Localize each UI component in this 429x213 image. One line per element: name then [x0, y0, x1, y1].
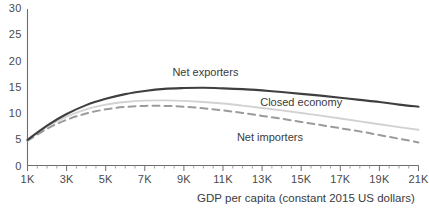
- x-axis-title: GDP per capita (constant 2015 US dollars…: [197, 192, 415, 204]
- x-axis-tick-label: 15K: [291, 173, 312, 185]
- y-axis-tick-label: 10: [9, 107, 22, 119]
- y-axis-tick-label: 20: [9, 55, 22, 67]
- x-axis-tick-label: 7K: [138, 173, 152, 185]
- x-axis-tick-label: 1K: [21, 173, 35, 185]
- series-label-net-exporters: Net exporters: [172, 66, 239, 78]
- x-axis-tick-label: 19K: [369, 173, 390, 185]
- series-label-closed-economy: Closed economy: [260, 96, 342, 108]
- chart-canvas: 051015202530 1K3K5K7K9K11K13K15K17K19K21…: [0, 0, 429, 213]
- series-label-net-importers: Net importers: [237, 131, 304, 143]
- x-axis-tick-label: 5K: [99, 173, 113, 185]
- x-axis-tick-label: 13K: [252, 173, 273, 185]
- x-axis-tick-label: 21K: [408, 173, 429, 185]
- y-axis-tick-label: 5: [15, 133, 21, 145]
- y-axis-tick-label: 0: [15, 160, 21, 172]
- y-axis-tick-label: 15: [9, 81, 22, 93]
- x-axis-tick-label: 3K: [60, 173, 74, 185]
- x-axis-tick-label: 17K: [330, 173, 351, 185]
- y-axis-tick-label: 30: [9, 2, 22, 14]
- y-axis-tick-label: 25: [9, 28, 22, 40]
- x-axis-tick-label: 11K: [213, 173, 233, 185]
- x-axis-tick-label: 9K: [177, 173, 191, 185]
- line-chart: 051015202530 1K3K5K7K9K11K13K15K17K19K21…: [0, 0, 429, 213]
